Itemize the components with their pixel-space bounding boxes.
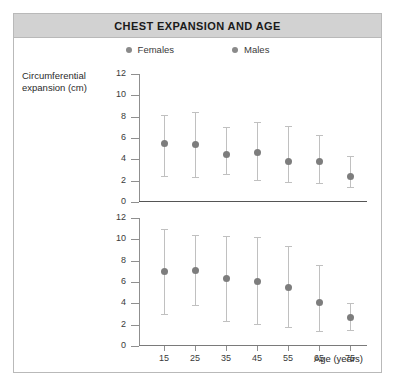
plot-area: 024681012 02468101215253545556575 bbox=[122, 74, 367, 356]
y-axis-label-line2: expansion (cm) bbox=[22, 82, 114, 94]
error-bar-cap bbox=[161, 229, 168, 230]
error-bar-cap bbox=[223, 236, 230, 237]
legend-marker-icon bbox=[232, 47, 238, 53]
error-bar-cap bbox=[285, 246, 292, 247]
legend-marker-icon bbox=[126, 47, 132, 53]
data-point bbox=[161, 140, 168, 147]
x-axis-tick-label: 35 bbox=[213, 353, 239, 363]
x-axis-tick-label: 25 bbox=[182, 353, 208, 363]
y-axis-tick bbox=[131, 325, 139, 326]
figure-title-bar: CHEST EXPANSION AND AGE bbox=[14, 14, 381, 38]
error-bar-cap bbox=[223, 174, 230, 175]
error-bar-cap bbox=[161, 314, 168, 315]
error-bar-cap bbox=[254, 122, 261, 123]
error-bar-cap bbox=[285, 126, 292, 127]
error-bar bbox=[350, 156, 351, 187]
error-bar-cap bbox=[254, 237, 261, 238]
x-axis-line bbox=[139, 345, 367, 346]
x-axis-tick-label: 55 bbox=[275, 353, 301, 363]
data-point bbox=[161, 268, 168, 275]
data-point bbox=[347, 314, 354, 321]
figure-container: CHEST EXPANSION AND AGE Females Males Ci… bbox=[13, 13, 382, 373]
x-axis-tick bbox=[195, 346, 196, 351]
x-axis-tick bbox=[350, 346, 351, 351]
x-axis-tick bbox=[288, 346, 289, 351]
y-axis-tick-label: 8 bbox=[102, 255, 126, 265]
error-bar-cap bbox=[192, 305, 199, 306]
error-bar-cap bbox=[192, 177, 199, 178]
y-axis-tick bbox=[131, 239, 139, 240]
y-axis-tick-label: 10 bbox=[102, 233, 126, 243]
error-bar bbox=[288, 126, 289, 181]
y-axis-tick bbox=[131, 138, 139, 139]
error-bar-cap bbox=[192, 112, 199, 113]
y-axis-label-line1: Circumferential bbox=[22, 70, 114, 82]
error-bar-cap bbox=[254, 180, 261, 181]
y-axis-tick-label: 0 bbox=[102, 196, 126, 206]
y-axis-tick-label: 2 bbox=[102, 175, 126, 185]
error-bar-cap bbox=[285, 327, 292, 328]
data-point bbox=[223, 275, 230, 282]
error-bar-cap bbox=[347, 187, 354, 188]
x-axis-tick bbox=[226, 346, 227, 351]
data-point bbox=[192, 141, 199, 148]
x-axis-tick bbox=[164, 346, 165, 351]
error-bar-cap bbox=[161, 115, 168, 116]
y-axis-tick bbox=[131, 202, 139, 203]
y-axis-tick bbox=[131, 346, 139, 347]
error-bar-cap bbox=[316, 135, 323, 136]
error-bar-cap bbox=[254, 324, 261, 325]
data-point bbox=[192, 267, 199, 274]
legend-label-males: Males bbox=[244, 44, 269, 55]
data-point bbox=[316, 158, 323, 165]
legend-label-females: Females bbox=[138, 44, 174, 55]
legend-item-females: Females bbox=[126, 44, 174, 55]
data-point bbox=[285, 284, 292, 291]
x-axis-tick bbox=[319, 346, 320, 351]
error-bar-cap bbox=[316, 265, 323, 266]
data-point bbox=[347, 173, 354, 180]
y-axis-tick bbox=[131, 261, 139, 262]
y-axis-tick-label: 6 bbox=[102, 276, 126, 286]
error-bar bbox=[319, 265, 320, 331]
error-bar-cap bbox=[223, 127, 230, 128]
y-axis-tick-label: 12 bbox=[102, 212, 126, 222]
error-bar-cap bbox=[347, 330, 354, 331]
legend-item-males: Males bbox=[232, 44, 269, 55]
y-axis-tick bbox=[131, 303, 139, 304]
y-axis-tick bbox=[131, 218, 139, 219]
y-axis-tick-label: 4 bbox=[102, 153, 126, 163]
x-axis-tick-label: 45 bbox=[244, 353, 270, 363]
x-axis-label: Age (years) bbox=[314, 353, 363, 364]
y-axis-tick bbox=[131, 282, 139, 283]
error-bar-cap bbox=[161, 176, 168, 177]
error-bar-cap bbox=[223, 321, 230, 322]
y-axis-tick-label: 6 bbox=[102, 132, 126, 142]
y-axis-tick bbox=[131, 74, 139, 75]
x-axis-tick bbox=[257, 346, 258, 351]
y-axis-tick bbox=[131, 181, 139, 182]
error-bar-cap bbox=[192, 235, 199, 236]
data-point bbox=[223, 151, 230, 158]
y-axis-tick-label: 12 bbox=[102, 68, 126, 78]
y-axis-tick bbox=[131, 95, 139, 96]
page-title: CHEST EXPANSION AND AGE bbox=[114, 20, 280, 32]
y-axis-label: Circumferential expansion (cm) bbox=[22, 70, 114, 94]
y-axis-tick-label: 2 bbox=[102, 319, 126, 329]
panel-males: 02468101215253545556575 bbox=[122, 218, 367, 346]
data-point bbox=[254, 149, 261, 156]
error-bar-cap bbox=[316, 183, 323, 184]
panel-females: 024681012 bbox=[122, 74, 367, 202]
y-axis-line bbox=[139, 74, 140, 202]
data-point bbox=[285, 158, 292, 165]
error-bar-cap bbox=[316, 331, 323, 332]
data-point bbox=[316, 299, 323, 306]
y-axis-tick-label: 0 bbox=[102, 340, 126, 350]
error-bar-cap bbox=[347, 303, 354, 304]
error-bar-cap bbox=[285, 182, 292, 183]
y-axis-tick-label: 4 bbox=[102, 297, 126, 307]
data-point bbox=[254, 278, 261, 285]
y-axis-tick bbox=[131, 117, 139, 118]
y-axis-tick-label: 8 bbox=[102, 111, 126, 121]
chart-legend: Females Males bbox=[14, 44, 381, 55]
